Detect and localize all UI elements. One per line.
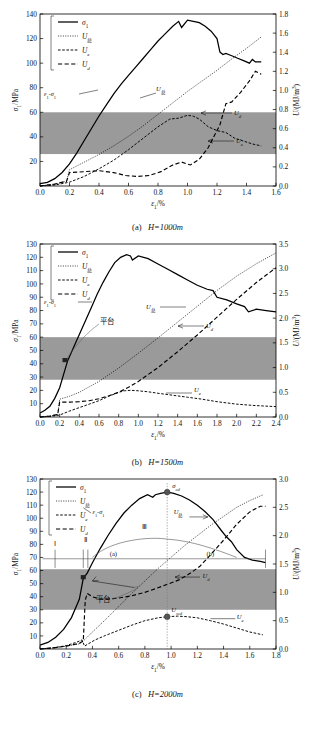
y-tick-left-label: 20 (30, 386, 38, 395)
y-tick-left-label: 50 (30, 579, 38, 588)
legend-bracket (51, 16, 54, 70)
y-tick-right-label: 1.2 (279, 67, 289, 76)
caption-c: (c) H=2000m (0, 689, 315, 699)
y-tick-right-label: 1.0 (279, 363, 289, 372)
caption-a-body: H=1000m (148, 222, 183, 232)
leader-eps-sigma (79, 90, 98, 94)
y-tick-left-label: 110 (26, 501, 37, 510)
x-tick-label: 0.6 (124, 188, 134, 197)
y-tick-left-label: 60 (30, 108, 38, 117)
y-tick-right-label: 1.6 (279, 29, 289, 38)
plot-c-svg: 0.00.20.40.60.81.01.21.41.61.81020304050… (0, 467, 315, 689)
y-tick-right-label: 0.6 (279, 124, 289, 133)
panel-c: 0.00.20.40.60.81.01.21.41.61.81020304050… (0, 467, 315, 699)
legend-bracket (49, 481, 52, 535)
x-tick-label: 1.4 (173, 419, 183, 428)
y-tick-left-label: 80 (30, 540, 38, 549)
x-tick-label: 2.0 (232, 419, 242, 428)
svg-text:U总: U总 (146, 303, 156, 313)
y-tick-left-label: 100 (26, 280, 37, 289)
y-tick-left-label: 130 (26, 475, 37, 484)
x-tick-label: 0.2 (65, 188, 75, 197)
y-tick-right-label: 3.5 (279, 240, 289, 249)
svg-text:Ue: Ue (194, 386, 201, 396)
curve-label-utotal: U总 (156, 85, 166, 95)
svg-text:ε1-σ1: ε1-σ1 (44, 90, 56, 100)
region-label-b: (b) (207, 550, 215, 558)
plot-b: 0.00.20.40.60.81.01.21.41.61.82.02.22.41… (0, 232, 315, 457)
plot-a-svg: 0.00.20.40.60.81.01.21.41.62040608010012… (0, 0, 315, 222)
leader-ud (178, 324, 204, 328)
svg-text:ε1/%: ε1/% (151, 430, 165, 441)
y-tick-left-label: 30 (30, 373, 38, 382)
y-tick-right-label: 0.8 (279, 105, 289, 114)
region-arc-b (167, 539, 236, 557)
svg-text:U总: U总 (156, 85, 166, 95)
x-tick-label: 1.0 (166, 651, 176, 660)
plot-c: 0.00.20.40.60.81.01.21.41.61.81020304050… (0, 467, 315, 689)
x-tick-label: 0.4 (75, 419, 85, 428)
svg-text:σ1/MPa: σ1/MPa (11, 88, 22, 111)
legend-label-sigma1: σ1 (82, 18, 89, 29)
svg-text:U/(MJ/m3): U/(MJ/m3) (291, 547, 301, 580)
legend-label-Utotal: U总 (82, 262, 92, 273)
x-tick-label: 1.2 (212, 188, 222, 197)
legend-label-Utotal: U总 (82, 32, 92, 43)
curve-label-eps-sigma: ε1-σ1 (44, 298, 56, 308)
y-tick-right-label: 0.2 (279, 162, 289, 171)
y-tick-left-label: 80 (30, 306, 38, 315)
y-tick-left-label: 20 (30, 618, 38, 627)
x-tick-label: 0.8 (140, 651, 150, 660)
y-tick-left-label: 120 (26, 34, 37, 43)
y-tick-left-label: 90 (30, 293, 38, 302)
y-tick-right-label: 1.5 (279, 560, 289, 569)
platform-label: 平台 (96, 594, 110, 604)
y-tick-right-label: 2.0 (279, 314, 289, 323)
y-tick-right-label: 1.0 (279, 86, 289, 95)
marker-u-scd (164, 614, 170, 620)
series-Utotal (40, 37, 261, 186)
y-tick-right-label: 0.5 (279, 388, 289, 397)
y-tick-left-label: 60 (30, 333, 38, 342)
curve-label-ue: Ue (194, 386, 201, 396)
plateau-marker (81, 575, 86, 579)
y-tick-right-label: 0.0 (279, 182, 289, 191)
legend-bracket (51, 246, 54, 300)
y-tick-left-label: 40 (30, 359, 38, 368)
legend-label-Ue: Ue (82, 46, 90, 57)
x-tick-label: 1.8 (212, 419, 222, 428)
platform-label: 平台 (100, 316, 114, 326)
x-tick-label: 0.6 (94, 419, 104, 428)
caption-c-prefix: (c) (132, 689, 141, 699)
y-tick-right-label: 2.5 (279, 503, 289, 512)
y-tick-left-label: 10 (30, 399, 38, 408)
curve-label-eps-sigma: ε1-σ1 (92, 508, 104, 518)
x-tick-label: 1.6 (193, 419, 203, 428)
x-axis-title: ε1/% (151, 199, 165, 210)
y-tick-right-label: 1.5 (279, 338, 289, 347)
x-axis-title: ε1/% (151, 662, 165, 673)
svg-text:Ue: Ue (237, 613, 244, 623)
caption-b-body: H=1500m (148, 457, 183, 467)
x-tick-label: 1.2 (193, 651, 203, 660)
y-tick-left-label: 120 (26, 253, 37, 262)
y-tick-left-label: 120 (26, 488, 37, 497)
y-tick-left-label: 90 (30, 527, 38, 536)
x-tick-label: 1.2 (153, 419, 163, 428)
peak-label-sigma-cd: σcd (172, 482, 180, 492)
panel-b: 0.00.20.40.60.81.01.21.41.61.82.02.22.41… (0, 232, 315, 467)
stage-marker-2: Ⅱ (84, 536, 87, 543)
x-tick-label: 0.4 (94, 188, 104, 197)
y-tick-left-label: 100 (26, 514, 37, 523)
y-tick-right-label: 0.4 (279, 143, 289, 152)
y-tick-left-label: 100 (26, 59, 37, 68)
y-tick-left-label: 140 (26, 10, 37, 19)
y-tick-right-label: 0.0 (279, 645, 289, 654)
y-tick-left-label: 60 (30, 566, 38, 575)
y-axis-right-title: U/(MJ/m3) (291, 314, 301, 347)
svg-text:σcd: σcd (172, 482, 180, 492)
curve-label-ue: Ue (237, 613, 244, 623)
legend: σ1U总UeUd (51, 246, 92, 300)
x-tick-label: 0.4 (88, 651, 98, 660)
y-tick-left-label: 80 (30, 83, 38, 92)
